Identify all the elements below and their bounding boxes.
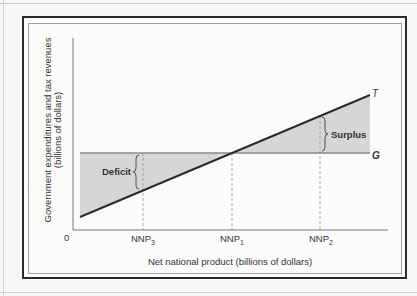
x-tick-nnp2: NNP2	[309, 233, 333, 246]
deficit-label: Deficit	[102, 166, 132, 177]
g-line-label: G	[372, 150, 380, 161]
t-line-label: T	[372, 88, 379, 99]
y-axis-label-line2: (billions of dollars)	[52, 92, 63, 169]
x-axis-label: Net national product (billions of dollar…	[148, 256, 312, 267]
x-tick-nnp3: NNP3	[131, 233, 155, 246]
surplus-label: Surplus	[331, 129, 366, 140]
x-tick-nnp1: NNP1	[220, 233, 244, 246]
origin-label: 0	[64, 232, 69, 243]
budget-diagram: Deficit Surplus T G 0 NNP3 NNP1 NNP2 Net…	[0, 0, 417, 296]
